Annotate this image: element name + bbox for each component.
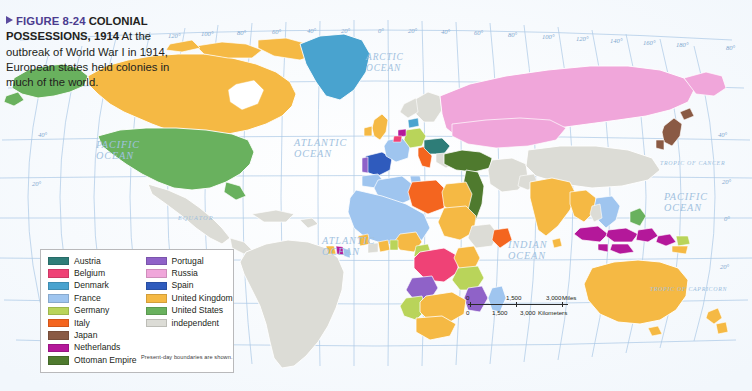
legend-item-austria[interactable]: Austria [48, 255, 137, 267]
legend-swatch-independent [146, 319, 167, 328]
legend-swatch-italy [48, 319, 69, 328]
lat-label-right-40n: 40° [718, 131, 727, 138]
legend-column-right: Portugal Russia Spain United Kingdom Uni… [146, 255, 233, 367]
scale-miles-unit: Miles [562, 294, 576, 301]
lon-label-40e: 40° [441, 28, 450, 35]
scale-tick-end [562, 302, 563, 307]
legend-item-spain[interactable]: Spain [146, 280, 233, 292]
legend-swatch-united-states [146, 307, 167, 316]
legend-label-united-states: United States [172, 306, 224, 315]
legend-item-japan[interactable]: Japan [48, 329, 137, 341]
legend-swatch-austria [48, 257, 69, 266]
legend-note: Present-day boundaries are shown. [141, 354, 233, 360]
legend-label-spain: Spain [172, 281, 194, 290]
lon-label-140e: 140° [610, 37, 623, 44]
lat-label-left-20n: 20° [32, 180, 41, 187]
legend-item-italy[interactable]: Italy [48, 317, 137, 329]
lon-label-80e: 80° [508, 31, 517, 38]
legend-label-denmark: Denmark [74, 281, 109, 290]
lon-label-60w: 60° [272, 28, 281, 35]
map-legend[interactable]: Austria Belgium Denmark France Germany I… [40, 249, 234, 373]
legend-swatch-netherlands [48, 344, 69, 353]
scale-km-tick-3000: 3,000 [520, 309, 535, 316]
scale-km-tick-0: 0 [466, 309, 469, 316]
legend-label-russia: Russia [172, 269, 198, 278]
scale-bar-graphic [468, 302, 568, 307]
legend-swatch-ottoman-empire [48, 356, 69, 365]
legend-swatch-denmark [48, 282, 69, 291]
scale-bar: 0 1,500 3,000 Miles 0 1,500 3,000 Kilome… [466, 293, 574, 316]
scale-tick-mid [516, 302, 517, 307]
scale-tick-start [470, 302, 471, 307]
legend-label-belgium: Belgium [74, 269, 105, 278]
figure-number: FIGURE 8-24 [16, 15, 86, 27]
lat-label-right-20s: 20° [720, 263, 729, 270]
scale-miles-tick-1500: 1,500 [506, 294, 521, 301]
map-figure: 140° 120° 100° 80° 60° 40° 20° 0° 20° 40… [0, 0, 752, 391]
legend-label-ottoman-empire: Ottoman Empire [74, 356, 137, 365]
legend-swatch-united-kingdom [146, 294, 167, 303]
legend-swatch-spain [146, 282, 167, 291]
lon-label-40w: 40° [307, 27, 316, 34]
legend-swatch-portugal [146, 257, 167, 266]
legend-item-portugal[interactable]: Portugal [146, 255, 233, 267]
legend-label-france: France [74, 294, 101, 303]
legend-swatch-belgium [48, 269, 69, 278]
legend-label-germany: Germany [74, 306, 109, 315]
lon-label-120e: 120° [576, 35, 589, 42]
legend-item-france[interactable]: France [48, 292, 137, 304]
lon-label-20w: 20° [341, 27, 350, 34]
scale-kilometers-row: 0 1,500 3,000 Kilometers [466, 308, 574, 316]
legend-label-independent: independent [172, 319, 219, 328]
lat-label-left-40n: 40° [38, 131, 47, 138]
scale-km-unit: Kilometers [538, 309, 567, 316]
scale-miles-tick-3000: 3,000 [546, 294, 561, 301]
legend-swatch-france [48, 294, 69, 303]
legend-item-belgium[interactable]: Belgium [48, 267, 137, 279]
legend-label-netherlands: Netherlands [74, 343, 120, 352]
legend-item-united-kingdom[interactable]: United Kingdom [146, 292, 233, 304]
scale-miles-row: 0 1,500 3,000 Miles [466, 293, 574, 301]
legend-swatch-russia [146, 269, 167, 278]
legend-item-denmark[interactable]: Denmark [48, 280, 137, 292]
lon-label-160e: 160° [643, 39, 656, 46]
legend-item-ottoman-empire[interactable]: Ottoman Empire [48, 354, 137, 366]
lat-label-right-20n: 20° [722, 178, 731, 185]
legend-label-japan: Japan [74, 331, 97, 340]
legend-label-united-kingdom: United Kingdom [172, 294, 233, 303]
legend-column-left: Austria Belgium Denmark France Germany I… [48, 255, 137, 367]
legend-item-germany[interactable]: Germany [48, 305, 137, 317]
scale-km-tick-1500: 1,500 [492, 309, 507, 316]
scale-bar-line [468, 304, 568, 305]
legend-label-austria: Austria [74, 257, 101, 266]
lon-label-100e: 100° [542, 33, 555, 40]
lon-label-100w: 100° [201, 30, 214, 37]
lat-label-right-0: 0° [724, 215, 730, 222]
country-portugal [362, 157, 368, 173]
legend-item-russia[interactable]: Russia [146, 267, 233, 279]
legend-label-italy: Italy [74, 319, 90, 328]
legend-item-netherlands[interactable]: Netherlands [48, 342, 137, 354]
lat-label-right-80n: 80° [726, 44, 735, 51]
lon-label-0: 0° [378, 27, 384, 34]
lon-label-20e: 20° [408, 27, 417, 34]
lon-label-180: 180° [676, 41, 689, 48]
figure-caption: FIGURE 8-24 COLONIAL POSSESSIONS, 1914 A… [6, 14, 184, 90]
legend-swatch-germany [48, 307, 69, 316]
lon-label-60e: 60° [474, 29, 483, 36]
legend-label-portugal: Portugal [172, 257, 204, 266]
lon-label-80w: 80° [237, 29, 246, 36]
legend-swatch-japan [48, 331, 69, 340]
scale-miles-tick-0: 0 [466, 294, 469, 301]
legend-item-united-states[interactable]: United States [146, 305, 233, 317]
legend-item-independent[interactable]: independent [146, 317, 233, 329]
caption-triangle-icon [6, 16, 13, 24]
